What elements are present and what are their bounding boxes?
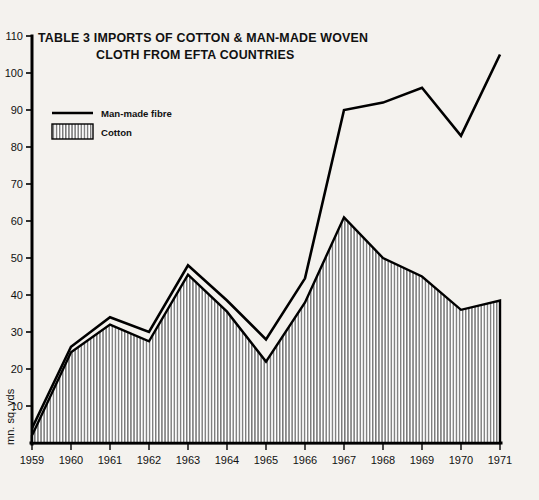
legend-marker-cotton — [52, 124, 93, 139]
legend-label-cotton: Cotton — [101, 127, 132, 138]
chart-title-line-1: TABLE 3 IMPORTS OF COTTON & MAN-MADE WOV… — [38, 31, 368, 45]
y-tick-label: 60 — [11, 215, 23, 227]
y-tick-label: 30 — [11, 326, 23, 338]
x-tick-label: 1962 — [137, 454, 161, 466]
y-tick-label: 70 — [11, 178, 23, 190]
y-tick-label: 50 — [11, 252, 23, 264]
y-tick-label: 80 — [11, 141, 23, 153]
y-tick-label: 110 — [5, 30, 23, 42]
x-tick-label: 1963 — [176, 454, 200, 466]
x-tick-label: 1969 — [410, 454, 434, 466]
x-tick-label: 1964 — [215, 454, 239, 466]
x-tick-label: 1970 — [449, 454, 473, 466]
y-axis-title-label: mn. sq. yds — [4, 388, 16, 445]
y-axis-title: mn. sq. yds — [4, 388, 16, 445]
x-tick-label: 1967 — [332, 454, 356, 466]
legend-label-man-made-fibre: Man-made fibre — [101, 108, 172, 119]
y-tick-label: 100 — [5, 67, 23, 79]
y-tick-label: 40 — [11, 289, 23, 301]
x-tick-label: 1971 — [488, 454, 512, 466]
x-tick-label: 1961 — [98, 454, 122, 466]
x-tick-label: 1959 — [20, 454, 44, 466]
imports-area-chart: TABLE 3 IMPORTS OF COTTON & MAN-MADE WOV… — [0, 0, 539, 500]
y-tick-label: 20 — [11, 363, 23, 375]
chart-figure: TABLE 3 IMPORTS OF COTTON & MAN-MADE WOV… — [0, 0, 539, 500]
chart-title-line-2: CLOTH FROM EFTA COUNTRIES — [96, 48, 294, 62]
x-tick-label: 1968 — [371, 454, 395, 466]
x-tick-label: 1966 — [293, 454, 317, 466]
x-tick-label: 1960 — [59, 454, 83, 466]
y-tick-label: 90 — [11, 104, 23, 116]
x-tick-label: 1965 — [254, 454, 278, 466]
